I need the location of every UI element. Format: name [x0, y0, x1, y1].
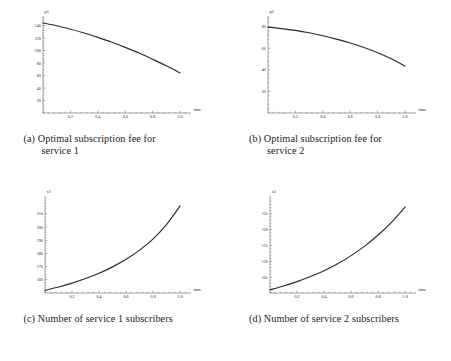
plot-c: 0.20.40.60.81.0160170180190200210x1time: [13, 186, 213, 311]
caption-a-line2: service 1: [24, 145, 202, 157]
svg-text:40: 40: [36, 86, 40, 91]
svg-text:80: 80: [262, 24, 266, 29]
svg-text:120: 120: [34, 36, 40, 41]
caption-a-line1: Optimal subscription fee for: [38, 133, 156, 144]
caption-d-label: (d): [249, 313, 261, 324]
caption-c-label: (c): [24, 313, 36, 324]
caption-d-line1: Number of service 2 subscribers: [264, 313, 399, 324]
svg-text:0.4: 0.4: [322, 294, 327, 299]
svg-text:time: time: [419, 287, 427, 292]
plot-a: 0.20.40.60.81.020406080100120140p1time: [13, 6, 213, 131]
svg-text:p1: p1: [44, 9, 48, 14]
svg-text:0.6: 0.6: [349, 294, 354, 299]
svg-text:x1: x1: [46, 189, 50, 194]
svg-text:200: 200: [36, 225, 42, 230]
svg-text:0.8: 0.8: [150, 114, 155, 119]
plot-d: 0.20.40.60.81.0105110115120125x2time: [238, 186, 438, 311]
svg-text:170: 170: [36, 264, 42, 269]
caption-b-line2: service 2: [249, 145, 427, 157]
svg-text:0.8: 0.8: [150, 294, 155, 299]
caption-c-line1: Number of service 1 subscribers: [38, 313, 173, 324]
svg-text:time: time: [193, 287, 201, 292]
plot-c-svg: 0.20.40.60.81.0160170180190200210x1time: [13, 186, 213, 311]
svg-text:110: 110: [262, 259, 268, 264]
plot-a-svg: 0.20.40.60.81.020406080100120140p1time: [13, 6, 213, 131]
svg-text:140: 140: [34, 23, 40, 28]
svg-text:0.6: 0.6: [348, 114, 353, 119]
svg-text:0.2: 0.2: [69, 294, 74, 299]
subfigure-a: 0.20.40.60.81.020406080100120140p1time (…: [0, 0, 225, 180]
svg-text:0.8: 0.8: [376, 294, 381, 299]
svg-text:0.2: 0.2: [67, 114, 72, 119]
svg-text:1.0: 1.0: [177, 294, 182, 299]
svg-text:1.0: 1.0: [403, 294, 408, 299]
svg-text:40: 40: [262, 67, 266, 72]
svg-text:120: 120: [262, 227, 268, 232]
plot-b: 0.20.40.60.81.020406080p2time: [238, 6, 438, 131]
figure-grid: 0.20.40.60.81.020406080100120140p1time (…: [0, 0, 451, 361]
caption-a: (a) Optimal subscription fee for service…: [24, 133, 202, 158]
svg-text:0.4: 0.4: [95, 114, 100, 119]
svg-text:0.4: 0.4: [320, 114, 325, 119]
svg-text:1.0: 1.0: [402, 114, 407, 119]
svg-text:time: time: [419, 107, 427, 112]
svg-text:60: 60: [262, 46, 266, 51]
svg-text:0.2: 0.2: [293, 114, 298, 119]
svg-text:160: 160: [36, 277, 42, 282]
subfigure-d: 0.20.40.60.81.0105110115120125x2time (d)…: [225, 180, 451, 361]
svg-text:0.8: 0.8: [375, 114, 380, 119]
svg-text:time: time: [193, 107, 201, 112]
svg-text:125: 125: [262, 211, 268, 216]
svg-text:180: 180: [36, 251, 42, 256]
svg-text:0.2: 0.2: [294, 294, 299, 299]
plot-d-svg: 0.20.40.60.81.0105110115120125x2time: [238, 186, 438, 311]
caption-c: (c) Number of service 1 subscribers: [24, 313, 202, 325]
caption-d: (d) Number of service 2 subscribers: [249, 313, 427, 325]
plot-b-svg: 0.20.40.60.81.020406080p2time: [238, 6, 438, 131]
subfigure-c: 0.20.40.60.81.0160170180190200210x1time …: [0, 180, 225, 361]
caption-a-label: (a): [24, 133, 36, 144]
svg-text:60: 60: [36, 73, 40, 78]
subfigure-b: 0.20.40.60.81.020406080p2time (b) Optima…: [225, 0, 451, 180]
svg-text:0.4: 0.4: [96, 294, 101, 299]
svg-text:1.0: 1.0: [177, 114, 182, 119]
svg-text:0.6: 0.6: [122, 114, 127, 119]
svg-text:210: 210: [36, 211, 42, 216]
svg-text:190: 190: [36, 238, 42, 243]
svg-text:p2: p2: [270, 9, 274, 14]
caption-b-line1: Optimal subscription fee for: [264, 133, 382, 144]
svg-text:x2: x2: [272, 189, 276, 194]
svg-text:100: 100: [34, 48, 40, 53]
svg-text:115: 115: [262, 243, 268, 248]
caption-b-label: (b): [249, 133, 261, 144]
svg-text:20: 20: [36, 98, 40, 103]
svg-text:0.6: 0.6: [123, 294, 128, 299]
caption-b: (b) Optimal subscription fee for service…: [249, 133, 427, 158]
svg-text:20: 20: [262, 89, 266, 94]
svg-text:105: 105: [262, 275, 268, 280]
svg-text:80: 80: [36, 61, 40, 66]
